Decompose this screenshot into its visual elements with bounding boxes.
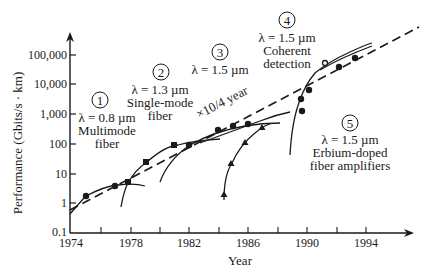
y-tick-100000: 100,000 xyxy=(28,48,67,62)
y-tick-100: 100 xyxy=(49,137,67,151)
svg-text:4: 4 xyxy=(284,13,291,28)
x-tick-1974: 1974 xyxy=(59,236,83,250)
svg-text:λ = 1.5 µm: λ = 1.5 µm xyxy=(191,62,248,77)
y-axis-title: Performance (Gbits/s · km) xyxy=(10,72,25,215)
y-tick-10000: 10,000 xyxy=(34,77,67,91)
x-tick-1990: 1990 xyxy=(295,236,319,250)
y-axis: 100,000 10,000 1,000 100 10 1 0.1 Perfor… xyxy=(10,34,76,239)
svg-text:fiber: fiber xyxy=(95,136,120,151)
series-3b-markers xyxy=(221,124,266,197)
annotation-2: 2 λ = 1.3 µm Single-mode fiber xyxy=(127,64,194,123)
x-tick-1982: 1982 xyxy=(177,236,201,250)
series-2-single-mode xyxy=(121,139,220,207)
annotation-5: 5 λ = 1.5 µm Erbium-doped fiber amplifie… xyxy=(310,115,391,173)
series-1-multimode xyxy=(70,184,145,214)
x-axis: 1974 1978 1982 1986 1990 1994 Year xyxy=(59,227,412,268)
x-axis-title: Year xyxy=(228,253,253,268)
x-tick-1986: 1986 xyxy=(236,236,260,250)
svg-text:1: 1 xyxy=(97,93,104,108)
svg-text:5: 5 xyxy=(347,116,354,131)
x-tick-1978: 1978 xyxy=(119,236,143,250)
svg-text:3: 3 xyxy=(217,45,224,60)
chart: 100,000 10,000 1,000 100 10 1 0.1 Perfor… xyxy=(0,0,431,275)
trend-label: ×10/4 year xyxy=(194,82,251,121)
annotation-3: 3 λ = 1.5 µm xyxy=(191,44,248,77)
svg-text:fiber: fiber xyxy=(148,108,173,123)
y-tick-10: 10 xyxy=(55,167,67,181)
y-tick-1: 1 xyxy=(61,196,67,210)
svg-text:detection: detection xyxy=(263,56,311,71)
series-2-markers xyxy=(125,142,177,185)
series-4-coherent-marker xyxy=(323,61,328,66)
x-tick-1994: 1994 xyxy=(354,236,378,250)
annotation-4: 4 λ = 1.5 µm Coherent detection xyxy=(258,12,315,71)
series-1-markers xyxy=(83,183,118,199)
y-tick-1000: 1,000 xyxy=(40,107,67,121)
svg-text:2: 2 xyxy=(158,65,165,80)
series-3-circles xyxy=(160,112,290,182)
svg-text:fiber amplifiers: fiber amplifiers xyxy=(310,158,391,173)
